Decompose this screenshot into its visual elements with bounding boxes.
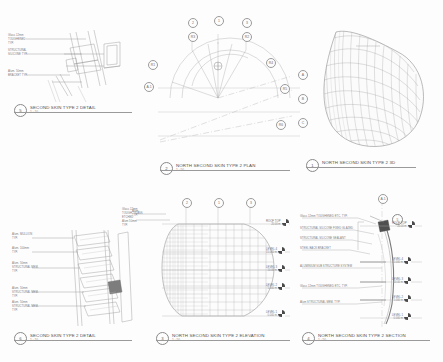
level-marker-icon bbox=[404, 257, 411, 264]
axis-bubble-left[interactable]: A.1 bbox=[144, 82, 154, 92]
elevation-side-note: Alum.TYP. bbox=[132, 210, 139, 218]
grid-bubble[interactable]: 2 bbox=[188, 18, 198, 28]
detail-annotation: Alum. 50mmSTRUCTURAL MEM.TYP. bbox=[12, 262, 38, 274]
level-marker-icon bbox=[404, 295, 411, 302]
level-elevation: 10.00 m bbox=[394, 281, 403, 284]
titleblock-5: 5 SECOND SKIN TYPE 2 DETAIL 1 : 10 bbox=[14, 104, 96, 117]
grid-bubble[interactable]: 1 bbox=[214, 16, 224, 26]
level-elevation: 5.000 m bbox=[394, 299, 403, 302]
axis-bubble[interactable]: A bbox=[298, 70, 308, 80]
section-annotation: Glass 12mm TOUGHENED ETC. TYP. bbox=[300, 285, 348, 289]
titleblock-4: 4 NORTH SECOND SKIN TYPE 2 SECTION 1 : 5… bbox=[302, 332, 406, 345]
level-tag: LEVEL 3 10.00 m bbox=[392, 277, 411, 284]
level-marker-icon bbox=[404, 313, 411, 320]
level-elevation: 20.00 m bbox=[271, 223, 280, 226]
section-annotation: STRUCTURAL SILICONE FIXED GLAZED bbox=[300, 227, 353, 231]
titleblock-rule bbox=[156, 340, 290, 341]
view-bubble: 1 bbox=[306, 159, 319, 172]
level-elevation: 20.00 m bbox=[397, 225, 406, 228]
level-tag: LEVEL 1 0.000 m bbox=[392, 313, 411, 320]
drawing-sheet: Glass 12mmTOUGHENEDTYP. STRUCTURALSILICO… bbox=[0, 0, 443, 362]
titleblock-rule bbox=[14, 340, 132, 341]
level-marker-icon bbox=[282, 219, 289, 226]
detail-annotation: STRUCTURALSILICONE TYP. bbox=[8, 49, 28, 57]
titleblock-rule bbox=[302, 340, 430, 341]
titleblock-3: 3 NORTH SECOND SKIN TYPE 2 ELEVATION 1 :… bbox=[156, 332, 265, 345]
level-elevation: 0.000 m bbox=[394, 317, 403, 320]
level-tag: LEVEL 3 10.00 m bbox=[266, 265, 285, 272]
level-marker-icon bbox=[278, 283, 285, 290]
level-marker-icon bbox=[404, 277, 411, 284]
radial-bubble[interactable]: R6 bbox=[276, 120, 286, 130]
grid-bubble[interactable]: 3 bbox=[242, 18, 252, 28]
view-bubble: 4 bbox=[302, 332, 315, 345]
section-annotation: Glass 12mm TOUGHENED ETC. TYP. bbox=[300, 215, 348, 219]
axis-bubble[interactable]: B bbox=[298, 94, 308, 104]
detail-annotation: Alum. 50mmBRACKET TYP. bbox=[8, 70, 28, 78]
level-tag: LEVEL 1 0.000 m bbox=[266, 310, 285, 317]
level-elevation: 5.000 m bbox=[268, 287, 277, 290]
viewport-north-second-skin-type-2-section: A.1 5 bbox=[298, 200, 440, 328]
titleblock-rule bbox=[306, 167, 416, 168]
grid-bubble-top[interactable]: A.1 bbox=[378, 194, 388, 204]
level-tag: LEVEL 4 15.000 m bbox=[266, 247, 285, 254]
viewport-north-second-skin-type-2-3d: A B C bbox=[302, 18, 440, 160]
detail-annotation: Alum. 50mmSTRUCTURAL MEM.TYP. bbox=[12, 287, 38, 299]
level-tag: LEVEL 2 5.000 m bbox=[392, 295, 411, 302]
radial-bubble[interactable]: R1 bbox=[148, 60, 158, 70]
level-tag: ROOF TOP 20.00 m bbox=[266, 219, 289, 226]
level-tag: LEVEL 2 5.000 m bbox=[266, 283, 285, 290]
section-annotation: ALUMINIUM SUB STRUCTURE SYSTEM bbox=[300, 265, 352, 269]
section-annotation: STRUCTURAL SILICONE SEALANT bbox=[300, 237, 346, 241]
detail-annotation: Glass 12mmTOUGHENEDTYP. bbox=[8, 34, 26, 46]
level-elevation: 10.00 m bbox=[268, 269, 277, 272]
view-title: NORTH SECOND SKIN TYPE 2 3D bbox=[322, 160, 395, 165]
level-marker-icon bbox=[408, 221, 415, 228]
titleblock-rule bbox=[14, 112, 132, 113]
axis-bubble[interactable]: C bbox=[298, 118, 308, 128]
titleblock-6: 6 SECOND SKIN TYPE 2 DETAIL 1 : 10 bbox=[14, 332, 96, 345]
viewport-second-skin-type-2-detail-top: Glass 12mmTOUGHENEDTYP. STRUCTURALSILICO… bbox=[8, 30, 133, 110]
titleblock-1: 1 NORTH SECOND SKIN TYPE 2 3D bbox=[306, 159, 395, 172]
view-bubble: 6 bbox=[14, 332, 27, 345]
viewport-north-second-skin-type-2-plan: 2 1 3 R3 R2 R1 R4 R5 R6 A.1 bbox=[152, 20, 300, 160]
grid-bubble[interactable]: 1 bbox=[214, 198, 224, 208]
view-bubble: 3 bbox=[156, 332, 169, 345]
detail-annotation: Alum. 100mmTYP. bbox=[12, 247, 29, 255]
level-tag: ROOF TOP 20.00 m bbox=[392, 221, 415, 228]
titleblock-2: 2 NORTH SECOND SKIN TYPE 2 PLAN 1 : 50 bbox=[160, 162, 255, 175]
viewport-second-skin-type-2-detail-bottom: Alum. MULLIONTYP. Alum. 100mmTYP. Alum. … bbox=[12, 230, 134, 330]
level-elevation: 0.000 m bbox=[268, 314, 277, 317]
titleblock-rule bbox=[160, 170, 290, 171]
level-tag: LEVEL 4 15.000 m bbox=[392, 257, 411, 264]
radial-bubble[interactable]: R4 bbox=[266, 58, 276, 68]
level-elevation: 15.000 m bbox=[392, 261, 403, 264]
section-annotation: Alum STRUCTURAL MEM. TYP. bbox=[300, 301, 340, 305]
detail-annotation: Alum. 50mmSTRUCTURAL MEM.TYP. bbox=[12, 301, 38, 313]
level-marker-icon bbox=[278, 247, 285, 254]
view-bubble: 2 bbox=[160, 162, 173, 175]
level-elevation: 15.000 m bbox=[266, 251, 277, 254]
detail-annotation: Alum. MULLIONTYP. bbox=[12, 233, 32, 241]
radial-bubble[interactable]: R3 bbox=[188, 32, 198, 42]
grid-bubble[interactable]: 3 bbox=[246, 198, 256, 208]
radial-bubble[interactable]: R2 bbox=[242, 32, 252, 42]
grid-bubble[interactable]: 2 bbox=[182, 198, 192, 208]
level-marker-icon bbox=[278, 265, 285, 272]
view-bubble: 5 bbox=[14, 104, 27, 117]
radial-bubble[interactable]: R5 bbox=[280, 84, 290, 94]
section-annotation: STEEL BACK BRACKET bbox=[300, 247, 331, 251]
level-marker-icon bbox=[278, 310, 285, 317]
